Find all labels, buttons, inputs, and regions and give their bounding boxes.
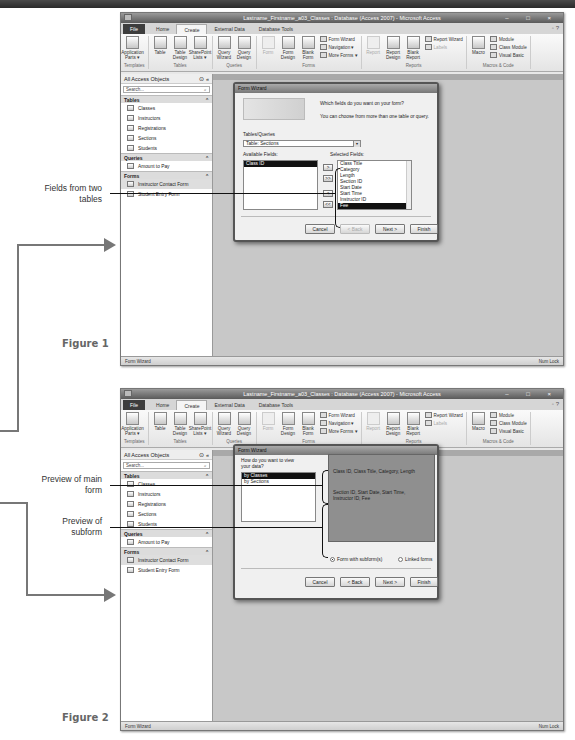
move-all-button[interactable]: >> (323, 175, 333, 182)
tab-database-tools[interactable]: Database Tools (252, 400, 300, 410)
report-button[interactable]: Report (365, 412, 382, 439)
class-module-button[interactable]: Class Module (490, 44, 527, 50)
nav-item-student-entry-form[interactable]: Student Entry Form (121, 189, 212, 199)
application-parts-button[interactable]: Application Parts ▾ (124, 412, 141, 439)
remove-all-button[interactable]: << (323, 201, 333, 208)
report-wizard-button[interactable]: Report Wizard (425, 412, 463, 418)
tab-create[interactable]: Create (176, 400, 207, 410)
nav-item-sections[interactable]: Sections (121, 509, 212, 519)
tab-home[interactable]: Home (149, 24, 176, 34)
report-design-button[interactable]: Report Design (385, 412, 402, 439)
nav-item-students[interactable]: Students (121, 143, 212, 153)
back-button[interactable]: < Back (340, 224, 370, 234)
nav-item-instructor-contact-form[interactable]: Instructor Contact Form (121, 179, 212, 189)
nav-search-input[interactable]: Search...⌕ (123, 462, 210, 469)
tab-home[interactable]: Home (149, 400, 176, 410)
window-controls[interactable]: – □ × (505, 13, 559, 23)
tab-external-data[interactable]: External Data (207, 24, 251, 34)
more-forms-button[interactable]: More Forms ▾ (320, 52, 358, 58)
more-forms-button[interactable]: More Forms ▾ (320, 428, 358, 434)
tab-database-tools[interactable]: Database Tools (252, 24, 300, 34)
finish-button[interactable]: Finish (410, 577, 438, 587)
table-design-button[interactable]: Table Design (172, 36, 189, 63)
macro-button[interactable]: Macro (470, 412, 487, 439)
tables-queries-select[interactable]: Table: Sections▾ (243, 140, 361, 147)
help-icon[interactable]: ◦ ? (552, 25, 559, 31)
sharepoint-lists-button[interactable]: SharePoint Lists ▾ (192, 36, 209, 63)
nav-item-amount-to-pay[interactable]: Amount to Pay (121, 161, 212, 171)
nav-item-student-entry-form[interactable]: Student Entry Form (121, 565, 212, 575)
labels-button[interactable]: Labels (425, 44, 463, 50)
form-design-button[interactable]: Form Design (280, 412, 297, 439)
window-controls[interactable]: – □ × (505, 389, 559, 399)
nav-header[interactable]: All Access Objects⊙ « (121, 450, 212, 460)
nav-section-forms[interactable]: Forms⌃ (121, 547, 212, 555)
selected-fields-list[interactable]: Class Title Category Length Section ID S… (337, 160, 412, 210)
query-wizard-button[interactable]: Query Wizard (216, 36, 233, 63)
nav-section-queries[interactable]: Queries⌃ (121, 529, 212, 537)
nav-section-tables[interactable]: Tables⌃ (121, 95, 212, 103)
tab-external-data[interactable]: External Data (207, 400, 251, 410)
table-button[interactable]: Table (152, 36, 169, 63)
report-wizard-button[interactable]: Report Wizard (425, 36, 463, 42)
nav-item-instructor-contact-form[interactable]: Instructor Contact Form (121, 555, 212, 565)
sharepoint-lists-button[interactable]: SharePoint Lists ▾ (192, 412, 209, 439)
form-button[interactable]: Form (260, 36, 277, 63)
labels-button[interactable]: Labels (425, 420, 463, 426)
nav-item-instructors[interactable]: Instructors (121, 113, 212, 123)
nav-item-amount-to-pay[interactable]: Amount to Pay (121, 537, 212, 547)
move-one-button[interactable]: > (323, 164, 333, 171)
back-button[interactable]: < Back (340, 577, 370, 587)
module-button[interactable]: Module (490, 36, 527, 42)
blank-report-button[interactable]: Blank Report (405, 412, 422, 439)
nav-header[interactable]: All Access Objects⊙ « (121, 74, 212, 84)
nav-section-forms[interactable]: Forms⌃ (121, 171, 212, 179)
navigation-button[interactable]: Navigation ▾ (320, 44, 358, 50)
nav-search-input[interactable]: Search...⌕ (123, 86, 210, 93)
macro-button[interactable]: Macro (470, 36, 487, 63)
blank-form-button[interactable]: Blank Form (300, 412, 317, 439)
table-button[interactable]: Table (152, 412, 169, 439)
nav-item-registrations[interactable]: Registrations (121, 499, 212, 509)
tab-file[interactable]: File (123, 24, 145, 34)
form-with-subforms-radio[interactable]: Form with subform(s) (330, 557, 382, 562)
form-design-button[interactable]: Form Design (280, 36, 297, 63)
list-item[interactable]: Class ID (244, 161, 317, 167)
next-button[interactable]: Next > (375, 577, 405, 587)
scrollbar[interactable] (406, 161, 411, 209)
table-design-button[interactable]: Table Design (172, 412, 189, 439)
tab-file[interactable]: File (123, 400, 145, 410)
finish-button[interactable]: Finish (410, 224, 438, 234)
class-module-button[interactable]: Class Module (490, 420, 527, 426)
nav-section-queries[interactable]: Queries⌃ (121, 153, 212, 161)
report-design-button[interactable]: Report Design (385, 36, 402, 63)
application-parts-button[interactable]: Application Parts ▾ (124, 36, 141, 63)
query-design-button[interactable]: Query Design (236, 412, 253, 439)
query-design-button[interactable]: Query Design (236, 36, 253, 63)
form-button[interactable]: Form (260, 412, 277, 439)
list-item[interactable]: Fee (338, 203, 411, 209)
visual-basic-button[interactable]: Visual Basic (490, 52, 527, 58)
nav-item-instructors[interactable]: Instructors (121, 489, 212, 499)
help-icon[interactable]: ◦ ? (552, 401, 559, 407)
cancel-button[interactable]: Cancel (305, 577, 335, 587)
query-wizard-button[interactable]: Query Wizard (216, 412, 233, 439)
module-button[interactable]: Module (490, 412, 527, 418)
dropdown-arrow-icon[interactable]: ▾ (353, 141, 360, 147)
report-button[interactable]: Report (365, 36, 382, 63)
nav-item-sections[interactable]: Sections (121, 133, 212, 143)
nav-collapse-icon[interactable]: ⊙ « (199, 76, 209, 82)
nav-item-registrations[interactable]: Registrations (121, 123, 212, 133)
form-wizard-button[interactable]: Form Wizard (320, 36, 358, 42)
tab-create[interactable]: Create (176, 24, 207, 34)
blank-report-button[interactable]: Blank Report (405, 36, 422, 63)
nav-item-classes[interactable]: Classes (121, 103, 212, 113)
available-fields-list[interactable]: Class ID (243, 160, 318, 210)
nav-collapse-icon[interactable]: ⊙ « (199, 452, 209, 458)
visual-basic-button[interactable]: Visual Basic (490, 428, 527, 434)
blank-form-button[interactable]: Blank Form (300, 36, 317, 63)
nav-section-tables[interactable]: Tables⌃ (121, 471, 212, 479)
view-by-list[interactable]: by Classes by Sections (241, 472, 316, 522)
linked-forms-radio[interactable]: Linked forms (398, 557, 432, 562)
nav-item-classes[interactable]: Classes (121, 479, 212, 489)
